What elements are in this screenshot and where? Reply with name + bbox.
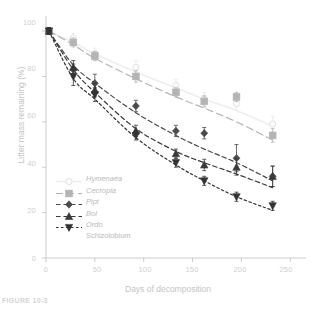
legend-item[interactable]: Cecropia: [55, 185, 131, 197]
legend-item-label: Ordo: [86, 220, 103, 229]
legend-item[interactable]: Bol: [55, 208, 131, 220]
x-tick-label: 200: [228, 265, 252, 274]
chart-plot-area: 100 80 60 40 20 0 0 50 100 150 200 250 L…: [0, 0, 318, 310]
y-tick-label: 100: [16, 18, 36, 27]
circle-open-icon: [55, 173, 83, 184]
x-tick-label: 250: [274, 265, 298, 274]
triangle-down-icon: [55, 219, 83, 230]
x-tick-label: 0: [34, 265, 58, 274]
y-tick-label: 20: [16, 206, 36, 215]
x-axis-title: Days of decomposition: [46, 284, 290, 294]
legend-item[interactable]: Hymenaea: [55, 173, 131, 185]
figure-caption: FIGURE 10-3: [2, 297, 48, 304]
x-tick-label: 100: [133, 265, 157, 274]
legend-item-label: Bol: [86, 209, 97, 218]
triangle-up-icon: [55, 208, 83, 219]
diamond-icon: [55, 196, 83, 207]
y-axis-title: Litter mass remaining (%): [16, 50, 26, 180]
figure-container: 100 80 60 40 20 0 0 50 100 150 200 250 L…: [0, 0, 318, 310]
legend-item-label: Cecropia: [86, 186, 116, 195]
chart-canvas: [0, 0, 318, 310]
square-icon: [55, 185, 83, 196]
y-tick-label: 0: [16, 254, 36, 263]
legend-item-label: Pipt: [86, 197, 99, 206]
x-tick-label: 150: [180, 265, 204, 274]
legend-continuation-label: Schizolobium: [86, 231, 131, 240]
legend-item[interactable]: Ordo: [55, 219, 131, 231]
x-tick-label: 50: [85, 265, 109, 274]
legend-item[interactable]: Pipt: [55, 196, 131, 208]
legend-item-label: Hymenaea: [86, 174, 122, 183]
chart-legend: Hymenaea Cecropia Pipt Bol Ordo Schizolo…: [55, 173, 131, 240]
